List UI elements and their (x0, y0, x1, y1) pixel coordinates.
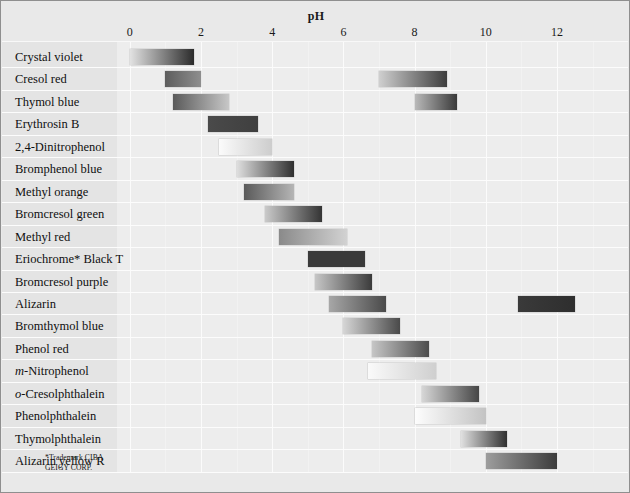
footnote: *Trademark CIBA GEIGY CORP. (45, 453, 103, 472)
table-row: Methyl red (1, 226, 629, 248)
transition-range-bar (173, 94, 230, 110)
table-row: Bromthymol blue (1, 315, 629, 337)
indicator-name-label: Bromphenol blue (15, 160, 102, 178)
transition-range-bar (372, 341, 429, 357)
transition-range-bar (308, 251, 365, 267)
indicator-name-label: Eriochrome* Black T (15, 250, 123, 268)
transition-range-bar (461, 431, 507, 447)
table-row: Phenol red (1, 338, 629, 360)
x-tick-4: 4 (269, 25, 275, 40)
row-separator (2, 472, 628, 473)
table-row: Bromcresol green (1, 203, 629, 225)
transition-range-bar (208, 116, 258, 132)
table-row: Thymol blue (1, 91, 629, 113)
axis-top-rule (2, 41, 628, 42)
transition-range-bar (219, 139, 272, 155)
table-row: Alizarin (1, 293, 629, 315)
transition-range-bar (486, 453, 557, 469)
indicator-name-label: Bromcresol purple (15, 273, 108, 291)
indicator-name-label: m-Nitrophenol (15, 362, 89, 380)
table-row: m-Nitrophenol (1, 360, 629, 382)
indicator-name-label: Bromthymol blue (15, 317, 104, 335)
transition-range-bar (237, 161, 294, 177)
table-row: Bromcresol purple (1, 271, 629, 293)
table-row: Bromphenol blue (1, 158, 629, 180)
indicator-name-label: Thymolphthalein (15, 430, 101, 448)
transition-range-bar (315, 274, 372, 290)
table-row: Erythrosin B (1, 113, 629, 135)
indicator-name-label: Erythrosin B (15, 115, 79, 133)
table-row: Cresol red (1, 68, 629, 90)
x-tick-6: 6 (340, 25, 346, 40)
table-row: Crystal violet (1, 46, 629, 68)
label-italic-prefix: m- (15, 364, 28, 378)
label-italic-prefix: o- (15, 387, 25, 401)
indicator-name-label: Thymol blue (15, 93, 79, 111)
transition-range-bar (165, 71, 201, 87)
indicator-name-label: Crystal violet (15, 48, 83, 66)
transition-range-bar (415, 94, 458, 110)
x-tick-10: 10 (480, 25, 492, 40)
indicator-name-label: Alizarin (15, 295, 56, 313)
chart-title: pH (1, 9, 630, 24)
x-tick-0: 0 (127, 25, 133, 40)
indicator-name-label: Methyl red (15, 228, 70, 246)
indicator-name-label: Cresol red (15, 70, 67, 88)
transition-range-bar (265, 206, 322, 222)
transition-range-bar (422, 386, 479, 402)
footnote-line-1: *Trademark CIBA (45, 453, 103, 462)
indicator-name-label: Methyl orange (15, 183, 88, 201)
table-row: Eriochrome* Black T (1, 248, 629, 270)
indicator-name-label: 2,4-Dinitrophenol (15, 138, 105, 156)
indicator-name-label: Phenol red (15, 340, 69, 358)
transition-range-bar (518, 296, 575, 312)
table-row: o-Cresolphthalein (1, 383, 629, 405)
transition-range-bar (329, 296, 386, 312)
ph-indicator-chart: pH 024681012 Crystal violetCresol redThy… (0, 0, 630, 493)
table-row: Phenolphthalein (1, 405, 629, 427)
indicator-name-label: Bromcresol green (15, 205, 104, 223)
indicator-name-label: o-Cresolphthalein (15, 385, 105, 403)
table-row: Methyl orange (1, 181, 629, 203)
transition-range-bar (379, 71, 447, 87)
table-row: Thymolphthalein (1, 428, 629, 450)
transition-range-bar (415, 408, 486, 424)
transition-range-bar (279, 229, 347, 245)
x-tick-12: 12 (551, 25, 563, 40)
x-tick-8: 8 (412, 25, 418, 40)
transition-range-bar (244, 184, 294, 200)
transition-range-bar (130, 49, 194, 65)
transition-range-bar (343, 318, 400, 334)
footnote-line-2: GEIGY CORP. (45, 463, 103, 472)
transition-range-bar (368, 363, 436, 379)
indicator-name-label: Phenolphthalein (15, 407, 96, 425)
x-tick-2: 2 (198, 25, 204, 40)
table-row: 2,4-Dinitrophenol (1, 136, 629, 158)
